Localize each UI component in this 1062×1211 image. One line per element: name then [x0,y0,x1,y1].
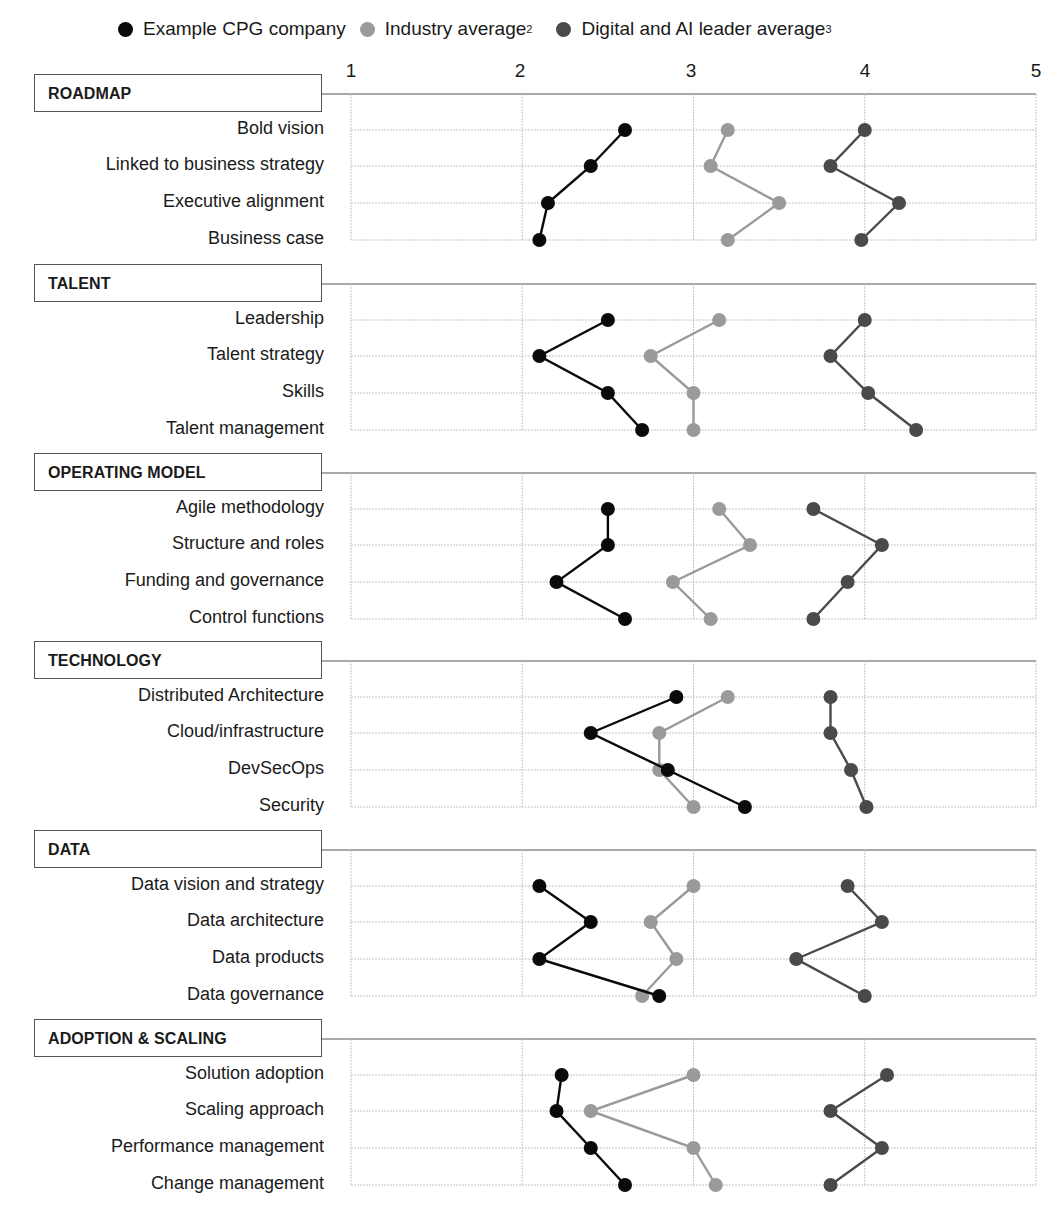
row-label: DevSecOps [228,758,324,779]
data-point [712,502,726,516]
data-point [601,538,615,552]
section-header-box: DATA [34,830,322,868]
row-label: Funding and governance [125,570,324,591]
data-point [721,123,735,137]
section-title: TECHNOLOGY [48,652,162,670]
row-label: Executive alignment [163,191,324,212]
data-point [875,538,889,552]
row-label: Structure and roles [172,533,324,554]
data-point [789,952,803,966]
data-point [687,423,701,437]
data-point [601,386,615,400]
data-point [644,915,658,929]
series-line [539,886,659,996]
section-title: OPERATING MODEL [48,464,206,482]
data-point [550,1104,564,1118]
row-label: Solution adoption [185,1063,324,1084]
row-label: Change management [151,1173,324,1194]
section-adoption-scaling: ADOPTION & SCALINGSolution adoptionScali… [0,1019,1062,1207]
data-point [601,313,615,327]
data-point [652,726,666,740]
data-point [644,349,658,363]
section-header-box: OPERATING MODEL [34,453,322,491]
data-point [666,575,680,589]
data-point [687,1068,701,1082]
footnote-marker: 2 [526,23,532,35]
section-title: DATA [48,841,90,859]
data-point [532,879,546,893]
section-technology: TECHNOLOGYDistributed ArchitectureCloud/… [0,641,1062,829]
section-title: ADOPTION & SCALING [48,1030,227,1048]
legend-item-leader: Digital and AI leader average3 [546,18,831,40]
section-header-box: TECHNOLOGY [34,641,322,679]
data-point [858,313,872,327]
row-label: Scaling approach [185,1099,324,1120]
data-point [880,1068,894,1082]
data-point [806,612,820,626]
data-point [743,538,757,552]
series-line [831,320,917,430]
data-point [652,989,666,1003]
row-label: Skills [282,381,324,402]
data-point [824,1104,838,1118]
data-point [854,233,868,247]
section-header-box: TALENT [34,264,322,302]
section-title: TALENT [48,275,111,293]
row-label: Bold vision [237,118,324,139]
row-label: Cloud/infrastructure [167,721,324,742]
data-point [841,575,855,589]
legend-label: Industry average [385,18,527,40]
row-label: Security [259,795,324,816]
section-roadmap: ROADMAPBold visionLinked to business str… [0,74,1062,262]
data-point [892,196,906,210]
section-header-box: ROADMAP [34,74,322,112]
data-point [584,726,598,740]
data-point [618,612,632,626]
row-label: Distributed Architecture [138,685,324,706]
data-point [721,233,735,247]
series-line [591,697,745,807]
row-label: Agile methodology [176,497,324,518]
series-line [831,1075,888,1185]
data-point [669,952,683,966]
data-point [721,690,735,704]
data-point [824,690,838,704]
row-label: Data architecture [187,910,324,931]
data-point [772,196,786,210]
data-point [858,989,872,1003]
series-line [557,509,626,619]
data-point [618,1178,632,1192]
data-point [738,800,752,814]
data-point [824,726,838,740]
series-line [539,320,642,430]
data-point [584,159,598,173]
data-point [859,800,873,814]
data-point [841,879,855,893]
series-line [651,320,720,430]
data-point [875,1141,889,1155]
data-point [669,690,683,704]
row-label: Business case [208,228,324,249]
data-point [618,123,632,137]
data-point [661,763,675,777]
data-point [541,196,555,210]
data-point [550,575,564,589]
row-label: Linked to business strategy [106,154,324,175]
data-point [532,952,546,966]
series-line [831,697,867,807]
data-point [687,800,701,814]
section-talent: TALENTLeadershipTalent strategySkillsTal… [0,264,1062,452]
row-label: Data vision and strategy [131,874,324,895]
data-point [824,1178,838,1192]
row-label: Talent strategy [207,344,324,365]
legend-dot-icon [118,22,133,37]
series-line [673,509,750,619]
data-point [532,349,546,363]
row-label: Leadership [235,308,324,329]
data-point [824,349,838,363]
data-point [584,1104,598,1118]
data-point [687,386,701,400]
row-label: Performance management [111,1136,324,1157]
data-point [635,423,649,437]
legend-dot-icon [360,22,375,37]
